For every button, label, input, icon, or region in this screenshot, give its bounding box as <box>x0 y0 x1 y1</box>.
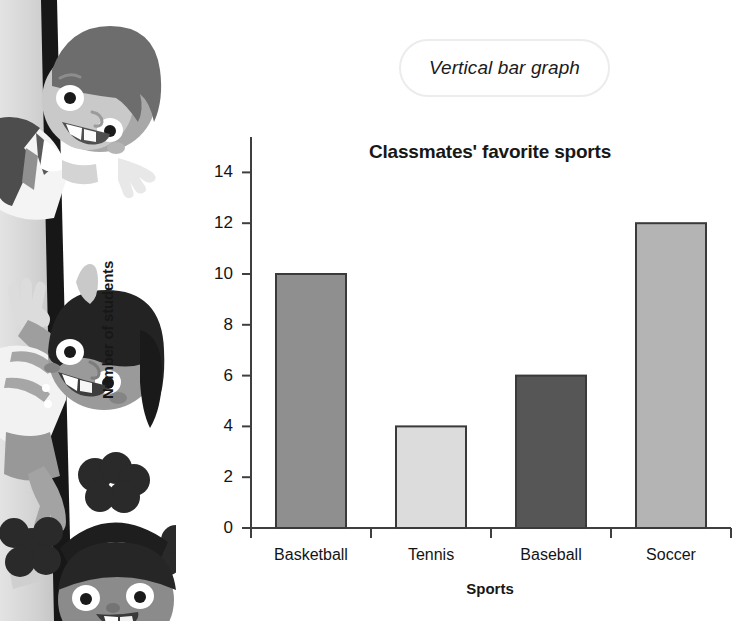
y-tick-label: 4 <box>193 417 233 434</box>
x-tick-label: Tennis <box>361 547 501 563</box>
plot-area <box>0 0 740 621</box>
bar <box>396 426 466 528</box>
y-tick-label: 14 <box>193 163 233 180</box>
y-tick-label: 6 <box>193 367 233 384</box>
x-tick-label: Basketball <box>241 547 381 563</box>
x-tick-label: Baseball <box>481 547 621 563</box>
y-tick-label: 12 <box>193 214 233 231</box>
bar <box>516 376 586 528</box>
y-tick-label: 8 <box>193 316 233 333</box>
bar <box>276 274 346 528</box>
y-tick-label: 0 <box>193 519 233 536</box>
x-tick-label: Soccer <box>601 547 740 563</box>
y-tick-label: 2 <box>193 468 233 485</box>
bar <box>636 223 706 528</box>
y-tick-label: 10 <box>193 265 233 282</box>
bar-chart: Classmates' favorite sports Number of st… <box>0 0 740 621</box>
